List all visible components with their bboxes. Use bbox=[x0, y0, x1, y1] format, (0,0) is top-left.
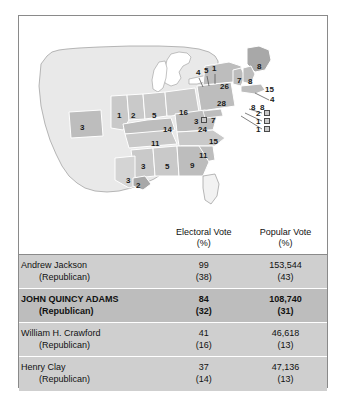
candidate-party: (Republican) bbox=[21, 339, 162, 351]
map-label-south-carolina: 11 bbox=[199, 152, 207, 160]
candidate-cell: JOHN QUINCY ADAMS (Republican) bbox=[19, 288, 164, 322]
map-label-delaware-mark: 3 bbox=[194, 118, 198, 126]
candidate-party: (Republican) bbox=[21, 271, 162, 283]
popular-vote-pct: (43) bbox=[246, 271, 325, 283]
map-label-illinois: 1 bbox=[117, 112, 121, 120]
map-callout-connecticut: 8 bbox=[251, 104, 255, 112]
florida-territory bbox=[203, 174, 219, 204]
header-electoral-vote: Electoral Vote (%) bbox=[164, 224, 244, 254]
map-label-alabama: 5 bbox=[165, 163, 169, 171]
election-results-figure: 3 1 2 5 16 28 26 14 24 11 15 11 3 5 9 3 … bbox=[18, 15, 328, 388]
map-label-virginia: 24 bbox=[198, 126, 207, 134]
united-states-map bbox=[19, 16, 327, 224]
map-callout-1: 1 bbox=[212, 65, 216, 73]
map-label-maine: 8 bbox=[257, 63, 261, 71]
header-popular-sub: (%) bbox=[278, 238, 292, 248]
popular-vote-value: 108,740 bbox=[246, 293, 325, 305]
popular-vote-pct: (13) bbox=[246, 373, 325, 385]
map-label-new-hampshire: 7 bbox=[237, 77, 241, 85]
map-label-indiana: 2 bbox=[131, 112, 135, 120]
electoral-vote-cell: 37 (14) bbox=[164, 357, 244, 391]
map-label-louisiana-sub: 2 bbox=[136, 182, 140, 190]
popular-vote-cell: 108,740 (31) bbox=[244, 288, 327, 322]
electoral-vote-cell: 84 (32) bbox=[164, 288, 244, 322]
popular-vote-pct: (13) bbox=[246, 339, 325, 351]
candidate-name: Henry Clay bbox=[21, 361, 162, 373]
table-row: JOHN QUINCY ADAMS (Republican) 84 (32) 1… bbox=[19, 288, 327, 322]
electoral-map-panel: 3 1 2 5 16 28 26 14 24 11 15 11 3 5 9 3 … bbox=[19, 16, 327, 224]
candidate-party: (Republican) bbox=[21, 305, 162, 317]
state-massachusetts bbox=[241, 84, 265, 94]
popular-vote-value: 46,618 bbox=[246, 327, 325, 339]
map-label-new-york: 26 bbox=[220, 83, 229, 91]
header-popular-vote: Popular Vote (%) bbox=[244, 224, 327, 254]
electoral-vote-value: 41 bbox=[166, 327, 242, 339]
map-label-kentucky: 14 bbox=[163, 126, 172, 134]
electoral-vote-cell: 41 (16) bbox=[164, 323, 244, 357]
candidate-party: (Republican) bbox=[21, 373, 162, 385]
table-row: William H. Crawford (Republican) 41 (16)… bbox=[19, 323, 327, 357]
popular-vote-cell: 153,544 (43) bbox=[244, 254, 327, 288]
popular-vote-value: 47,136 bbox=[246, 361, 325, 373]
map-label-pennsylvania: 28 bbox=[217, 100, 226, 108]
header-candidate bbox=[19, 224, 164, 254]
map-label-louisiana: 3 bbox=[126, 177, 130, 185]
header-electoral-sub: (%) bbox=[197, 238, 211, 248]
callout-box-dc bbox=[264, 126, 270, 132]
map-label-north-carolina: 15 bbox=[209, 138, 218, 146]
map-label-tennessee: 11 bbox=[151, 140, 159, 148]
state-missouri bbox=[69, 110, 103, 138]
header-electoral-title: Electoral Vote bbox=[176, 227, 232, 237]
candidate-cell: Andrew Jackson (Republican) bbox=[19, 254, 164, 288]
callout-box-inline bbox=[201, 117, 207, 123]
popular-vote-cell: 47,136 (13) bbox=[244, 357, 327, 391]
electoral-vote-value: 37 bbox=[166, 361, 242, 373]
candidate-name: JOHN QUINCY ADAMS bbox=[21, 293, 162, 305]
popular-vote-cell: 46,618 (13) bbox=[244, 323, 327, 357]
election-results-table: Electoral Vote (%) Popular Vote (%) Andr… bbox=[19, 224, 327, 391]
electoral-vote-pct: (38) bbox=[166, 271, 242, 283]
map-callout-dc: 1 bbox=[256, 126, 260, 134]
map-label-ohio-west: 5 bbox=[152, 112, 156, 120]
callout-box-delaware bbox=[264, 110, 270, 116]
electoral-vote-value: 84 bbox=[166, 293, 242, 305]
electoral-vote-pct: (14) bbox=[166, 373, 242, 385]
table-row: Andrew Jackson (Republican) 99 (38) 153,… bbox=[19, 254, 327, 288]
popular-vote-value: 153,544 bbox=[246, 259, 325, 271]
candidate-name: William H. Crawford bbox=[21, 327, 162, 339]
table-header-row: Electoral Vote (%) Popular Vote (%) bbox=[19, 224, 327, 254]
candidate-name: Andrew Jackson bbox=[21, 259, 162, 271]
candidate-cell: Henry Clay (Republican) bbox=[19, 357, 164, 391]
map-callout-michigan-area: 4 bbox=[196, 69, 200, 77]
electoral-vote-cell: 99 (38) bbox=[164, 254, 244, 288]
map-label-missouri: 3 bbox=[80, 124, 84, 132]
electoral-vote-value: 99 bbox=[166, 259, 242, 271]
map-label-massachusetts: 15 bbox=[265, 86, 274, 94]
map-label-georgia: 9 bbox=[190, 162, 194, 170]
map-label-mississippi: 3 bbox=[141, 163, 145, 171]
map-label-maryland: 7 bbox=[211, 117, 215, 125]
map-callout-rhode-island: 4 bbox=[270, 96, 274, 104]
callout-box-maryland bbox=[264, 118, 270, 124]
state-alabama bbox=[153, 146, 179, 176]
popular-vote-pct: (31) bbox=[246, 305, 325, 317]
state-indiana bbox=[127, 94, 145, 120]
electoral-vote-pct: (32) bbox=[166, 305, 242, 317]
table-row: Henry Clay (Republican) 37 (14) 47,136 (… bbox=[19, 357, 327, 391]
candidate-cell: William H. Crawford (Republican) bbox=[19, 323, 164, 357]
electoral-vote-pct: (16) bbox=[166, 339, 242, 351]
map-label-vermont: 8 bbox=[248, 78, 252, 86]
header-popular-title: Popular Vote bbox=[260, 227, 312, 237]
map-label-ohio: 16 bbox=[179, 109, 188, 117]
map-callout-5: 5 bbox=[204, 67, 208, 75]
